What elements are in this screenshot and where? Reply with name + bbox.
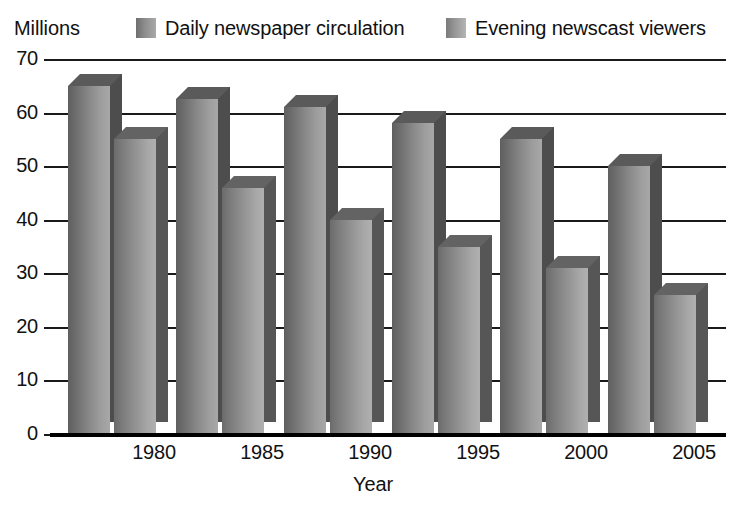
bar bbox=[500, 139, 542, 434]
bar-front-face bbox=[284, 107, 326, 434]
y-tick-mark bbox=[44, 220, 58, 222]
x-tick-label: 1990 bbox=[315, 441, 425, 463]
bar-chart: Millions Daily newspaper circulation Eve… bbox=[0, 0, 746, 511]
bar bbox=[438, 247, 480, 435]
y-tick-label: 20 bbox=[0, 316, 38, 336]
y-tick-label: 40 bbox=[0, 209, 38, 229]
legend-label: Daily newspaper circulation bbox=[165, 18, 404, 38]
bar-front-face bbox=[500, 139, 542, 434]
y-tick-label: 30 bbox=[0, 262, 38, 282]
bar bbox=[392, 123, 434, 434]
x-tick-label: 1985 bbox=[207, 441, 317, 463]
bar-front-face bbox=[176, 99, 218, 434]
bar-front-face bbox=[222, 188, 264, 434]
bar-front-face bbox=[330, 220, 372, 434]
bar-front-face bbox=[608, 166, 650, 434]
bar-front-face bbox=[438, 247, 480, 435]
x-tick-label: 1995 bbox=[423, 441, 533, 463]
legend-swatch-icon bbox=[446, 18, 466, 38]
legend-swatch-icon bbox=[136, 18, 156, 38]
y-tick-label: 0 bbox=[0, 423, 38, 443]
bar bbox=[68, 86, 110, 434]
y-axis-unit-label: Millions bbox=[14, 17, 80, 40]
bar-side-face bbox=[372, 208, 384, 422]
bar-side-face bbox=[156, 127, 168, 422]
legend-label: Evening newscast viewers bbox=[475, 18, 706, 38]
bar-side-face bbox=[696, 283, 708, 422]
bar bbox=[608, 166, 650, 434]
bar bbox=[330, 220, 372, 434]
y-tick-label: 10 bbox=[0, 369, 38, 389]
bar-side-face bbox=[480, 235, 492, 423]
y-tick-mark bbox=[44, 59, 58, 61]
chart-legend: Millions Daily newspaper circulation Eve… bbox=[0, 0, 746, 52]
bar bbox=[222, 188, 264, 434]
bar-front-face bbox=[546, 268, 588, 434]
y-tick-mark bbox=[44, 327, 58, 329]
gridline bbox=[58, 59, 726, 61]
x-tick-label: 2000 bbox=[531, 441, 641, 463]
legend-item-daily-newspaper-circulation[interactable]: Daily newspaper circulation bbox=[136, 18, 404, 38]
bar bbox=[176, 99, 218, 434]
y-tick-mark bbox=[44, 380, 58, 382]
y-tick-label: 70 bbox=[0, 48, 38, 68]
bar bbox=[546, 268, 588, 434]
y-tick-mark bbox=[44, 273, 58, 275]
bar bbox=[284, 107, 326, 434]
legend-item-evening-newscast-viewers[interactable]: Evening newscast viewers bbox=[446, 18, 706, 38]
x-tick-label: 1980 bbox=[99, 441, 209, 463]
bar-front-face bbox=[392, 123, 434, 434]
bar-front-face bbox=[654, 295, 696, 434]
y-tick-mark bbox=[44, 113, 58, 115]
y-tick-label: 50 bbox=[0, 155, 38, 175]
bar bbox=[654, 295, 696, 434]
bar-side-face bbox=[588, 256, 600, 422]
bar-front-face bbox=[114, 139, 156, 434]
bar-front-face bbox=[68, 86, 110, 434]
bar-side-face bbox=[264, 176, 276, 422]
plot-area bbox=[58, 59, 726, 434]
bar bbox=[114, 139, 156, 434]
x-tick-label: 2005 bbox=[639, 441, 746, 463]
gridline bbox=[58, 113, 726, 115]
x-axis-line bbox=[50, 433, 726, 437]
y-tick-label: 60 bbox=[0, 102, 38, 122]
x-axis-title: Year bbox=[0, 473, 746, 496]
y-tick-mark bbox=[44, 166, 58, 168]
